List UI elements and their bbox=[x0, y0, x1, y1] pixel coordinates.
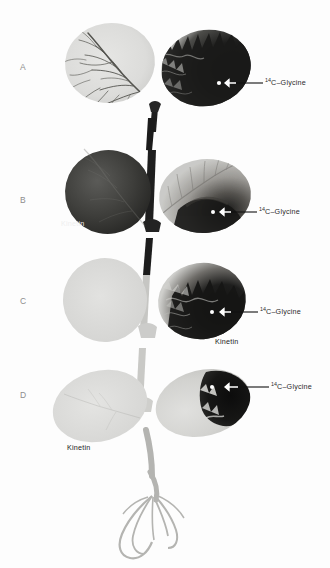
root-system bbox=[120, 430, 184, 558]
application-dot-c bbox=[210, 310, 214, 314]
kinetin-label-d: Kinetin bbox=[67, 444, 90, 451]
panel-d-plant bbox=[44, 348, 269, 558]
application-dot-a bbox=[217, 81, 221, 85]
tracer-text-a: C–Glycine bbox=[271, 78, 306, 87]
application-dot-d bbox=[210, 385, 214, 389]
tracer-label-b: 14C–Glycine bbox=[259, 207, 300, 216]
tracer-text-c: C–Glycine bbox=[266, 307, 301, 316]
panel-b-plant bbox=[58, 118, 257, 244]
tracer-label-a: 14C–Glycine bbox=[265, 78, 306, 87]
kinetin-label-c: Kinetin bbox=[215, 338, 238, 345]
panel-letter-a: A bbox=[20, 62, 26, 72]
panel-letter-d: D bbox=[20, 390, 27, 400]
kinetin-label-b: Kinetin bbox=[61, 220, 84, 227]
tracer-label-d: 14C–Glycine bbox=[271, 382, 312, 391]
panel-c-plant bbox=[59, 238, 258, 346]
tracer-text-d: C–Glycine bbox=[277, 382, 312, 391]
panel-letter-b: B bbox=[20, 195, 26, 205]
autoradiograph-figure: A B C D 14C–Glycine 14C–Glycine 14C–Glyc… bbox=[0, 0, 330, 568]
tracer-label-c: 14C–Glycine bbox=[260, 307, 301, 316]
application-dot-b bbox=[211, 210, 215, 214]
panel-letter-c: C bbox=[20, 296, 27, 306]
tracer-text-b: C–Glycine bbox=[265, 207, 300, 216]
panel-a-plant bbox=[60, 17, 263, 132]
